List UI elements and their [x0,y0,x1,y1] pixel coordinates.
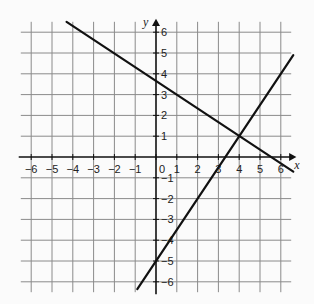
y-tick-label: 4 [161,68,167,80]
x-tick-label: −2 [108,163,121,175]
x-tick-label: −6 [25,163,38,175]
y-tick-label: −1 [161,172,174,184]
x-tick-label: 5 [257,163,263,175]
y-tick-label: −3 [161,213,174,225]
x-tick-label: 4 [236,163,242,175]
y-tick-label: 2 [161,109,167,121]
y-tick-label: −2 [161,193,174,205]
coordinate-plane: −6−5−4−3−2−10123456−6−5−4−3−2−1123456xy [0,0,314,304]
x-tick-label: −4 [67,163,80,175]
line-decreasing [67,22,294,172]
y-axis-arrow-icon [152,19,160,26]
x-tick-label: −1 [129,163,142,175]
y-tick-label: 3 [161,89,167,101]
y-tick-label: 1 [161,130,167,142]
y-tick-label: −5 [161,255,174,267]
y-tick-label: 6 [161,26,167,38]
y-tick-label: 5 [161,47,167,59]
y-tick-label: −6 [161,276,174,288]
x-tick-label: −3 [87,163,100,175]
x-tick-label: −5 [46,163,59,175]
y-axis-label: y [142,15,149,29]
x-tick-label: 2 [195,163,201,175]
x-tick-label: 1 [174,163,180,175]
x-axis-label: x [293,158,300,172]
